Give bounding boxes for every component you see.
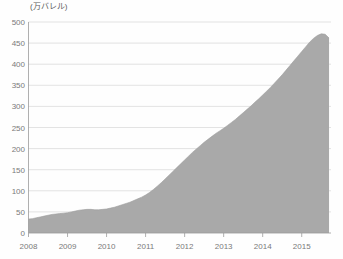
x-axis-ticks — [29, 233, 302, 237]
area-chart-plot: 050100150200250300350400450500 200820092… — [0, 0, 343, 259]
y-axis-tick-label: 300 — [12, 102, 26, 111]
y-axis-tick-labels: 050100150200250300350400450500 — [12, 18, 26, 238]
y-axis-tick-label: 0 — [21, 229, 26, 238]
area-series-fill — [29, 34, 330, 233]
y-axis-tick-label: 200 — [12, 145, 26, 154]
y-axis-tick-label: 150 — [12, 166, 26, 175]
x-axis-tick-label: 2012 — [176, 242, 194, 251]
x-axis-tick-label: 2011 — [137, 242, 155, 251]
x-axis-tick-label: 2015 — [293, 242, 311, 251]
y-axis-tick-label: 400 — [12, 60, 26, 69]
y-axis-tick-label: 500 — [12, 18, 26, 27]
x-axis-tick-label: 2014 — [254, 242, 272, 251]
y-axis-tick-label: 350 — [12, 81, 26, 90]
x-axis-tick-label: 2013 — [215, 242, 233, 251]
y-axis-tick-label: 250 — [12, 124, 26, 133]
x-axis-tick-label: 2010 — [98, 242, 116, 251]
x-axis-tick-label: 2009 — [59, 242, 77, 251]
chart-container: (万バレル) 050100150200250300350400450500 20… — [0, 0, 343, 259]
x-axis-tick-labels: 20082009201020112012201320142015 — [20, 242, 312, 251]
x-axis-tick-label: 2008 — [20, 242, 38, 251]
y-axis-tick-label: 50 — [16, 208, 25, 217]
y-axis-tick-label: 450 — [12, 39, 26, 48]
y-axis-tick-label: 100 — [12, 187, 26, 196]
area-series — [29, 34, 330, 233]
